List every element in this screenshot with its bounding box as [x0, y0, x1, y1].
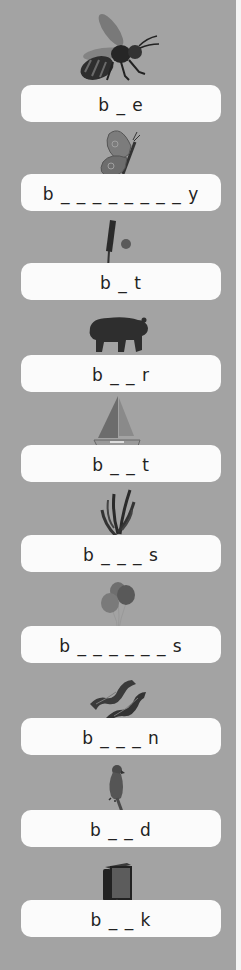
book-icon [101, 861, 135, 905]
answer-box[interactable]: b _ _ _ s [21, 535, 221, 572]
word-prompt: b _ _ _ _ _ _ s [59, 634, 182, 656]
boat-icon [92, 396, 144, 452]
word-prompt: b _ _ _ _ _ _ _ _ y [43, 182, 200, 204]
bacon-icon [88, 678, 148, 722]
butterfly-icon [93, 126, 143, 178]
word-prompt: b _ _ _ n [82, 726, 160, 748]
word-prompt: b _ _ r [92, 363, 150, 385]
word-prompt: b _ e [98, 93, 144, 115]
word-prompt: b _ _ k [91, 908, 152, 930]
page-edge [236, 0, 241, 970]
word-prompt: b _ t [100, 271, 142, 293]
answer-box[interactable]: b _ e [21, 85, 221, 122]
answer-box[interactable]: b _ _ _ _ _ _ _ _ y [21, 174, 221, 211]
word-prompt: b _ _ _ s [83, 543, 159, 565]
answer-box[interactable]: b _ t [21, 263, 221, 300]
bear-icon [86, 314, 150, 354]
answer-box[interactable]: b _ _ r [21, 355, 221, 392]
answer-box[interactable]: b _ _ d [21, 810, 221, 847]
word-prompt: b _ _ t [92, 453, 150, 475]
worksheet-page: b _ e b _ _ _ _ _ _ _ _ y b _ t b [0, 0, 236, 970]
bugs-grass-icon [98, 488, 138, 538]
answer-box[interactable]: b _ _ _ _ _ _ s [21, 626, 221, 663]
answer-box[interactable]: b _ _ k [21, 900, 221, 937]
word-prompt: b _ _ d [90, 818, 152, 840]
answer-box[interactable]: b _ _ _ n [21, 718, 221, 755]
bee-icon [73, 10, 163, 90]
answer-box[interactable]: b _ _ t [21, 445, 221, 482]
